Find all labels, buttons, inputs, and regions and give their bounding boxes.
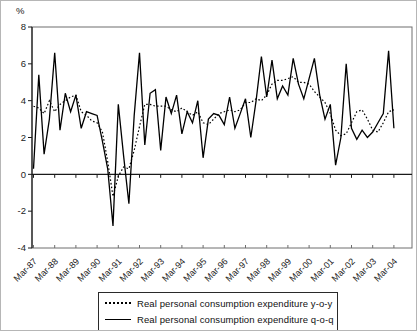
- y-tick-label: 8: [21, 21, 26, 32]
- line-chart: 86420-2-4%Mar-87Mar-88Mar-89Mar-90Mar-91…: [1, 1, 417, 331]
- chart-legend: Real personal consumption expenditure y-…: [98, 292, 338, 331]
- plot-frame: [32, 27, 412, 248]
- legend-item-yoy: Real personal consumption expenditure y-…: [105, 295, 331, 311]
- consumption-expenditure-chart-figure: 86420-2-4%Mar-87Mar-88Mar-89Mar-90Mar-91…: [0, 0, 417, 331]
- y-tick-label: 4: [21, 95, 26, 106]
- y-tick-label: -2: [18, 205, 26, 216]
- y-tick-label: -4: [18, 242, 26, 253]
- x-tick-label: Mar-04: [372, 256, 399, 283]
- solid-line-sample: [105, 319, 131, 320]
- series-dotted-line: [34, 77, 394, 197]
- y-tick-label: 6: [21, 58, 26, 69]
- y-tick-label: 2: [21, 132, 26, 143]
- y-tick-label: 0: [21, 169, 26, 180]
- dotted-line-sample: [105, 302, 131, 304]
- legend-item-qoq: Real personal consumption expenditure q-…: [105, 311, 331, 327]
- legend-label-yoy: Real personal consumption expenditure y-…: [137, 298, 332, 309]
- y-axis-unit-label: %: [16, 5, 25, 16]
- legend-label-qoq: Real personal consumption expenditure q-…: [137, 314, 334, 325]
- series-solid-line: [34, 51, 394, 226]
